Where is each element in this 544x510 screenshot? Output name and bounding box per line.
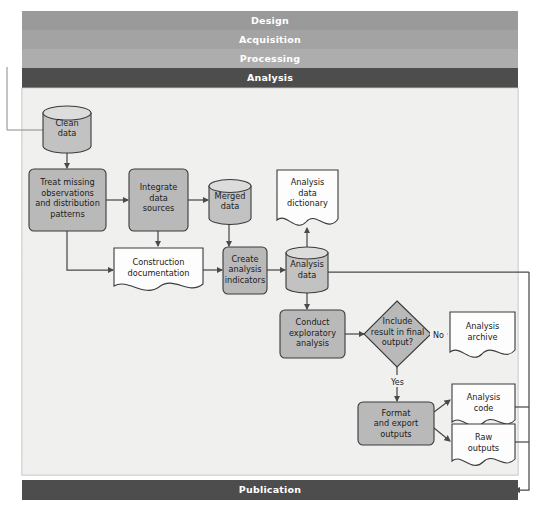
node-treat-missing-line-2: and distribution [35, 198, 100, 208]
phase-bar-acquisition[interactable]: Acquisition [22, 30, 518, 49]
phase-bar-design[interactable]: Design [22, 11, 518, 30]
node-include-decision-line-0: Include [383, 316, 413, 326]
node-integrate-data-line-2: sources [143, 203, 174, 213]
node-construction-doc[interactable]: Construction documentation [114, 248, 203, 290]
node-analysis-dictionary[interactable]: Analysis data dictionary [277, 170, 338, 225]
phase-bar-design-label: Design [251, 15, 289, 26]
node-include-decision-line-1: result in final [371, 327, 424, 337]
node-analysis-data-line-0: Analysis [290, 259, 324, 269]
node-conduct-exploratory[interactable]: Conduct exploratory analysis [280, 310, 345, 358]
node-treat-missing-line-0: Treat missing [39, 177, 94, 187]
node-create-indicators-line-2: indicators [225, 275, 265, 285]
node-integrate-data-line-0: Integrate [140, 182, 178, 192]
svg-text:Yes: Yes [390, 378, 404, 387]
diagram-canvas: Design Acquisition Processing Analysis [0, 0, 544, 510]
node-analysis-code-line-0: Analysis [467, 392, 501, 402]
svg-text:No: No [433, 331, 444, 340]
edge-label-yes: Yes [386, 375, 409, 387]
node-analysis-code-line-1: code [474, 403, 494, 413]
node-create-indicators[interactable]: Create analysis indicators [223, 247, 267, 294]
edge-label-no: No [430, 328, 447, 340]
node-raw-outputs[interactable]: Raw outputs [452, 424, 515, 465]
node-raw-outputs-line-0: Raw [475, 432, 493, 442]
node-merged-data-line-0: Merged [215, 191, 246, 201]
node-integrate-data[interactable]: Integrate data sources [129, 169, 188, 231]
node-treat-missing[interactable]: Treat missing observations and distribut… [29, 169, 106, 231]
node-analysis-dictionary-line-1: data [298, 188, 316, 198]
node-include-decision-line-2: output? [382, 337, 413, 347]
phase-bar-analysis-label: Analysis [247, 72, 293, 83]
node-clean-data[interactable]: Clean data [43, 106, 91, 153]
phase-bar-acquisition-label: Acquisition [239, 34, 301, 45]
node-create-indicators-line-0: Create [231, 254, 258, 264]
node-conduct-exploratory-line-2: analysis [296, 338, 329, 348]
node-analysis-data[interactable]: Analysis data [286, 247, 328, 293]
node-analysis-code[interactable]: Analysis code [452, 384, 515, 426]
node-merged-data[interactable]: Merged data [209, 180, 251, 225]
node-raw-outputs-line-1: outputs [468, 443, 499, 453]
node-conduct-exploratory-line-1: exploratory [289, 328, 336, 338]
node-format-export-line-0: Format [382, 408, 412, 418]
node-clean-data-line-1: data [58, 128, 76, 138]
node-format-export-line-1: and export [374, 418, 419, 428]
node-analysis-archive-line-1: archive [467, 332, 497, 342]
node-format-export-line-2: outputs [380, 429, 411, 439]
node-analysis-archive[interactable]: Analysis archive [450, 312, 515, 357]
phase-bar-publication[interactable]: Publication [22, 480, 518, 500]
node-format-export[interactable]: Format and export outputs [358, 402, 434, 445]
node-construction-doc-line-1: documentation [127, 268, 189, 278]
analysis-panel [22, 88, 518, 475]
node-construction-doc-line-0: Construction [132, 257, 184, 267]
node-analysis-dictionary-line-2: dictionary [287, 198, 328, 208]
node-analysis-archive-line-0: Analysis [466, 321, 500, 331]
node-analysis-dictionary-line-0: Analysis [291, 177, 325, 187]
node-clean-data-line-0: Clean [55, 118, 78, 128]
phase-bar-publication-label: Publication [239, 484, 301, 495]
node-treat-missing-line-1: observations [41, 188, 94, 198]
phase-bar-analysis[interactable]: Analysis [22, 68, 518, 88]
node-merged-data-line-1: data [221, 201, 239, 211]
node-analysis-data-line-1: data [298, 270, 316, 280]
phase-bar-processing[interactable]: Processing [22, 49, 518, 68]
node-conduct-exploratory-line-0: Conduct [295, 317, 330, 327]
node-integrate-data-line-1: data [149, 193, 167, 203]
phase-bar-processing-label: Processing [240, 53, 300, 64]
node-treat-missing-line-3: patterns [50, 209, 84, 219]
node-create-indicators-line-1: analysis [228, 264, 261, 274]
